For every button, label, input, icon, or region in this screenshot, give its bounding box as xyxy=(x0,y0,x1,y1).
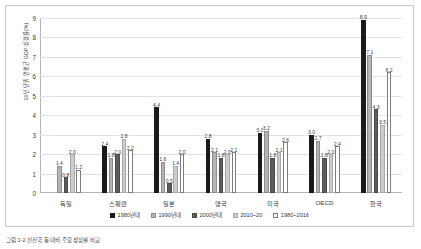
bar-value-label: 2.4 xyxy=(101,141,108,147)
y-tick-label: 8 xyxy=(32,34,36,41)
y-tick-label: 2 xyxy=(32,151,36,158)
bar: 1.6 xyxy=(161,162,166,193)
x-tick-label: 한국 xyxy=(350,199,402,208)
y-tick-label: 9 xyxy=(32,15,36,22)
bar-group: 8.97.14.33.56.2한국 xyxy=(350,18,402,193)
bar: 3.0 xyxy=(309,135,314,193)
bar: 2.4 xyxy=(335,146,340,193)
y-tick-label: 5 xyxy=(32,92,36,99)
bar-value-label: 1.4 xyxy=(56,160,63,166)
legend-item[interactable]: 2000년대 xyxy=(192,211,222,219)
bar-value-label: 1.8 xyxy=(269,152,276,158)
legend-swatch xyxy=(273,213,278,218)
bar: 2.0 xyxy=(70,154,75,193)
axis-area: 0123456789 1.40.82.01.2독일2.41.82.02.82.2… xyxy=(40,18,402,193)
bar: 8.9 xyxy=(361,20,366,193)
bar: 2.0 xyxy=(225,154,230,193)
bar-value-label: 4.4 xyxy=(153,102,160,108)
legend-label: 1980년대 xyxy=(118,211,140,219)
bar-value-label: 2.1 xyxy=(276,147,283,153)
bar-value-label: 4.3 xyxy=(373,104,380,110)
bar-group: 2.41.82.02.82.2스웨덴 xyxy=(92,18,144,193)
bar: 2.1 xyxy=(277,152,282,193)
bar: 2.0 xyxy=(115,154,120,193)
bar: 2.8 xyxy=(206,139,211,193)
bar: 1.8 xyxy=(219,158,224,193)
bar: 0.8 xyxy=(64,177,69,193)
y-tick-label: 4 xyxy=(32,112,36,119)
bar: 2.0 xyxy=(329,154,334,193)
bar: 3.2 xyxy=(264,131,269,193)
bar-value-label: 3.5 xyxy=(379,119,386,125)
bar-value-label: 2.8 xyxy=(205,133,212,139)
legend-label: 2000년대 xyxy=(199,211,221,219)
bar: 6.2 xyxy=(387,72,392,193)
bar-value-label: 2.0 xyxy=(69,149,76,155)
bar-value-label: 2.8 xyxy=(120,133,127,139)
legend-label: 2010~20 xyxy=(240,212,262,218)
y-tick-label: 6 xyxy=(32,73,36,80)
bar: 1.8 xyxy=(109,158,114,193)
bar: 3.5 xyxy=(380,125,385,193)
bar-value-label: 0.8 xyxy=(62,172,69,178)
bar-group: 2.82.11.82.02.1영국 xyxy=(195,18,247,193)
x-tick-label: 스웨덴 xyxy=(92,199,144,208)
y-tick-label: 0 xyxy=(32,190,36,197)
y-axis-title: 10년 단위 연평균 GDP 성장률(%) xyxy=(22,2,29,122)
legend-swatch xyxy=(110,213,115,218)
bar-group: 4.41.60.51.42.0일본 xyxy=(143,18,195,193)
x-tick-label: 미국 xyxy=(247,199,299,208)
bar: 2.6 xyxy=(283,142,288,193)
legend-swatch xyxy=(151,213,156,218)
bar: 1.4 xyxy=(173,166,178,193)
legend-label: 1980~2016 xyxy=(281,212,309,218)
bar: 7.1 xyxy=(367,55,372,193)
x-tick-label: 독일 xyxy=(40,199,92,208)
bar: 1.2 xyxy=(76,170,81,193)
bar: 2.8 xyxy=(122,139,127,193)
bar-value-label: 8.9 xyxy=(360,14,367,20)
bar-value-label: 7.1 xyxy=(366,49,373,55)
legend-swatch xyxy=(233,213,238,218)
bar: 2.7 xyxy=(316,141,321,194)
bar: 2.1 xyxy=(212,152,217,193)
bar-group: 1.40.82.01.2독일 xyxy=(40,18,92,193)
legend-swatch xyxy=(192,213,197,218)
bar: 1.4 xyxy=(57,166,62,193)
x-tick-label: OECD xyxy=(299,199,351,206)
legend-item[interactable]: 1980~2016 xyxy=(273,212,309,218)
bar-value-label: 2.6 xyxy=(282,137,289,143)
x-tick-label: 영국 xyxy=(195,199,247,208)
bar: 1.8 xyxy=(322,158,327,193)
bar-value-label: 2.0 xyxy=(114,149,121,155)
legend-item[interactable]: 1990년대 xyxy=(151,211,181,219)
bar-value-label: 3.2 xyxy=(263,125,270,131)
legend: 1980년대1990년대2000년대2010~201980~2016 xyxy=(6,211,413,219)
bar: 2.2 xyxy=(128,150,133,193)
bar-value-label: 2.0 xyxy=(327,149,334,155)
y-tick-label: 7 xyxy=(32,53,36,60)
bar-value-label: 2.7 xyxy=(314,135,321,141)
chart-screenshot: 10년 단위 연평균 GDP 성장률(%) 0123456789 1.40.82… xyxy=(0,0,421,249)
y-tick-label: 3 xyxy=(32,131,36,138)
figure-frame: 10년 단위 연평균 GDP 성장률(%) 0123456789 1.40.82… xyxy=(5,5,414,227)
bar-value-label: 2.4 xyxy=(334,141,341,147)
bars-layer: 1.40.82.01.2독일2.41.82.02.82.2스웨덴4.41.60.… xyxy=(40,18,402,193)
bar: 0.5 xyxy=(167,183,172,193)
bar: 4.3 xyxy=(374,109,379,193)
x-tick-label: 일본 xyxy=(143,199,195,208)
bar: 1.8 xyxy=(270,158,275,193)
y-tick-label: 1 xyxy=(32,170,36,177)
bar-group: 3.13.21.82.12.6미국 xyxy=(247,18,299,193)
legend-item[interactable]: 2010~20 xyxy=(233,212,262,218)
bar-value-label: 2.0 xyxy=(179,149,186,155)
legend-label: 1990년대 xyxy=(158,211,180,219)
bar: 2.4 xyxy=(102,146,107,193)
plot-area: 10년 단위 연평균 GDP 성장률(%) 0123456789 1.40.82… xyxy=(6,6,413,226)
bar: 3.1 xyxy=(258,133,263,193)
bar: 2.1 xyxy=(232,152,237,193)
bar-value-label: 2.1 xyxy=(230,147,237,153)
bar-value-label: 0.5 xyxy=(166,178,173,184)
legend-item[interactable]: 1980년대 xyxy=(110,211,140,219)
bar-value-label: 2.2 xyxy=(127,145,134,151)
